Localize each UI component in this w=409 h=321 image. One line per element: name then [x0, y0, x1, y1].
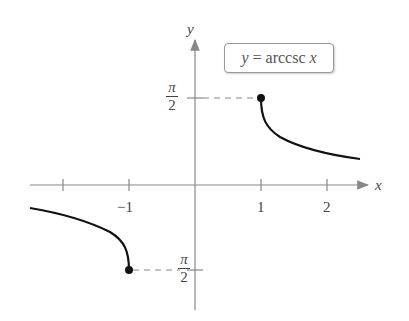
legend-y: y	[241, 49, 248, 67]
x-tick-label-2: 2	[323, 200, 331, 215]
function-label-box: y = arccsc x	[224, 43, 334, 73]
legend-eq: = arccsc	[249, 49, 310, 67]
curve-left	[30, 208, 129, 270]
y-axis-label: y	[187, 22, 194, 37]
endpoint-upper	[257, 94, 265, 102]
pi-symbol: π	[168, 80, 176, 95]
chart-canvas	[0, 0, 409, 321]
y-tick-label-neg-pi-over-2: π 2	[178, 252, 190, 285]
endpoint-lower	[125, 266, 133, 274]
x-tick-label-neg1: −1	[117, 200, 133, 215]
legend-x: x	[309, 49, 316, 67]
x-axis-label: x	[375, 178, 382, 193]
denominator: 2	[180, 270, 188, 285]
y-tick-label-pi-over-2: π 2	[166, 80, 178, 113]
denominator: 2	[168, 98, 176, 113]
pi-symbol: π	[180, 252, 188, 267]
curve-right	[261, 98, 360, 159]
x-tick-label-1: 1	[257, 200, 265, 215]
